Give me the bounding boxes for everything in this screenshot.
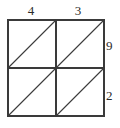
grid-diagram: [0, 0, 120, 128]
label-top-right-column: 3: [71, 4, 85, 17]
label-top-left-column: 4: [24, 4, 38, 17]
label-right-bottom-row: 2: [106, 89, 118, 102]
geometry-figure: 4 3 9 2: [0, 0, 120, 128]
label-right-top-row: 9: [106, 39, 118, 52]
